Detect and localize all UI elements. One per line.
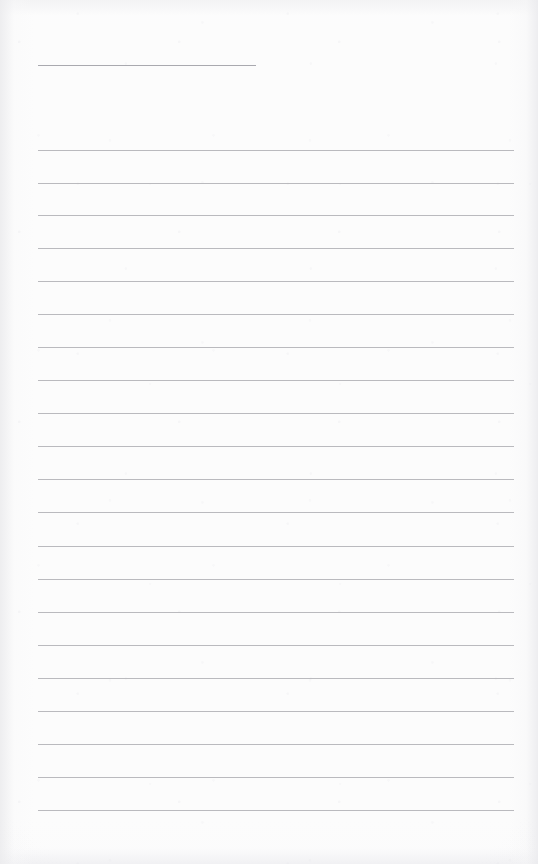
lined-paper-page — [0, 0, 538, 864]
ruled-line — [38, 446, 514, 447]
ruled-line — [38, 281, 514, 282]
ruled-line — [38, 579, 514, 580]
ruled-line — [38, 512, 514, 513]
ruled-line — [38, 810, 514, 811]
ruled-line — [38, 413, 514, 414]
ruled-line — [38, 777, 514, 778]
ruled-line — [38, 183, 514, 184]
ruled-line — [38, 546, 514, 547]
ruled-line — [38, 479, 514, 480]
ruled-line — [38, 380, 514, 381]
ruled-line — [38, 314, 514, 315]
ruled-line — [38, 215, 514, 216]
ruled-lines-layer — [0, 0, 538, 864]
header-rule — [38, 65, 256, 66]
ruled-line — [38, 248, 514, 249]
ruled-line — [38, 711, 514, 712]
ruled-line — [38, 347, 514, 348]
ruled-line — [38, 612, 514, 613]
ruled-line — [38, 678, 514, 679]
ruled-line — [38, 150, 514, 151]
ruled-line — [38, 744, 514, 745]
ruled-line — [38, 645, 514, 646]
